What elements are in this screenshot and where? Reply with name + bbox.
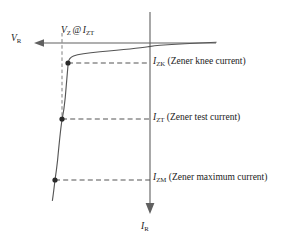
izm-current-label: IZM (Zener maximum current): [153, 173, 267, 183]
reverse-current-axis-label: IR: [141, 222, 149, 232]
izk-current-label: IZK (Zener knee current): [153, 57, 246, 67]
izt-current-label: IZT (Zener test current): [153, 113, 240, 123]
izk-description: (Zener knee current): [168, 56, 246, 66]
vr-symbol: V: [11, 33, 17, 43]
izk-marker-dot: [65, 60, 70, 65]
izt-marker-dot: [59, 116, 64, 121]
vz-symbol: V: [61, 25, 67, 35]
zener-curve-svg: [0, 0, 296, 240]
vertical-axis-arrowhead: [146, 203, 155, 214]
izt-description: (Zener test current): [167, 112, 240, 122]
at-symbol: @: [72, 25, 81, 35]
izt-subscript-inline: ZT: [86, 29, 94, 36]
vr-subscript: R: [17, 37, 22, 44]
zener-characteristic-diagram: VR VZ@IZT IZK (Zener knee current) IZT (…: [0, 0, 296, 240]
vz-at-izt-annotation: VZ@IZT: [61, 26, 94, 36]
ir-subscript: R: [144, 225, 149, 232]
izk-subscript: ZK: [156, 60, 165, 67]
izm-marker-dot: [52, 177, 57, 182]
izm-subscript: ZM: [156, 176, 166, 183]
izm-description: (Zener maximum current): [169, 172, 268, 182]
izt-subscript: ZT: [156, 116, 164, 123]
reverse-voltage-axis-label: VR: [11, 34, 21, 44]
vz-subscript: Z: [67, 29, 71, 36]
horizontal-axis-arrowhead: [34, 39, 44, 47]
